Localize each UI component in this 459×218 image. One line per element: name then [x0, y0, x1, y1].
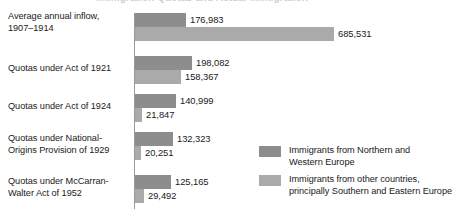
immigration-quota-bar-chart: Immigration Quotas and Actual Immigratio…: [0, 0, 459, 218]
row-category-label: Quotas under McCarran- Walter Act of 195…: [8, 176, 130, 199]
bar-value-label: 198,082: [192, 56, 230, 70]
bar-group-northern-western: 125,165: [135, 175, 209, 189]
legend-label-line1: Immigrants from Northern and: [289, 145, 410, 155]
bar-value-label: 132,323: [173, 132, 211, 146]
legend-item-other-countries[interactable]: Immigrants from other countries, princip…: [259, 174, 459, 197]
bar-group-northern-western: 198,082: [135, 56, 230, 70]
row-category-label-line1: Quotas under Act of 1921: [8, 63, 130, 75]
bar-value-label: 176,983: [186, 13, 224, 27]
bar-value-label: 685,531: [334, 27, 372, 41]
legend-label-line2: principally Southern and Eastern Europe: [289, 186, 452, 196]
chart-row: Quotas under Act of 1924 140,999 21,847: [0, 94, 459, 122]
bar-value-label: 29,492: [144, 189, 176, 203]
bar-value-label: 140,999: [176, 94, 214, 108]
bar-northern-western[interactable]: [135, 94, 176, 108]
legend-label-line1: Immigrants from other countries,: [289, 174, 420, 184]
bar-northern-western[interactable]: [135, 175, 171, 189]
bar-other[interactable]: [135, 189, 144, 203]
row-category-label: Average annual inflow, 1907–1914: [8, 11, 130, 34]
bar-northern-western[interactable]: [135, 13, 186, 27]
row-category-label: Quotas under National- Origins Provision…: [8, 133, 130, 156]
legend-label-line2: Western Europe: [289, 157, 355, 167]
bar-group-northern-western: 140,999: [135, 94, 214, 108]
bar-other[interactable]: [135, 27, 334, 41]
bar-group-other: 20,251: [135, 146, 173, 160]
bar-value-label: 21,847: [142, 108, 174, 122]
chart-row: Quotas under Act of 1921 198,082 158,367: [0, 56, 459, 84]
row-category-label-line1: Quotas under Act of 1924: [8, 101, 130, 113]
bar-group-other: 158,367: [135, 70, 219, 84]
bar-group-northern-western: 132,323: [135, 132, 211, 146]
chart-row: Average annual inflow, 1907–1914 176,983…: [0, 13, 459, 41]
row-category-label-line1: Average annual inflow,: [8, 11, 130, 23]
row-category-label-line1: Quotas under McCarran-: [8, 176, 130, 188]
chart-legend: Immigrants from Northern and Western Eur…: [259, 145, 459, 203]
bar-value-label: 125,165: [171, 175, 209, 189]
row-category-label-line2: 1907–1914: [8, 23, 130, 35]
bar-group-other: 21,847: [135, 108, 174, 122]
bar-group-northern-western: 176,983: [135, 13, 224, 27]
legend-label: Immigrants from other countries, princip…: [289, 174, 459, 197]
legend-label: Immigrants from Northern and Western Eur…: [289, 145, 459, 168]
row-category-label: Quotas under Act of 1924: [8, 101, 130, 113]
row-category-label-line1: Quotas under National-: [8, 133, 130, 145]
chart-title-cropped: Immigration Quotas and Actual Immigratio…: [0, 0, 459, 5]
row-category-label-line2: Origins Provision of 1929: [8, 145, 130, 157]
bar-group-other: 29,492: [135, 189, 176, 203]
bar-other[interactable]: [135, 108, 142, 122]
bar-value-label: 158,367: [181, 70, 219, 84]
bar-other[interactable]: [135, 70, 181, 84]
bar-northern-western[interactable]: [135, 56, 192, 70]
bar-group-other: 685,531: [135, 27, 372, 41]
legend-swatch-icon: [259, 175, 281, 186]
chart-title-text: Immigration Quotas and Actual Immigratio…: [96, 0, 308, 3]
legend-swatch-icon: [259, 146, 281, 157]
row-category-label: Quotas under Act of 1921: [8, 63, 130, 75]
bar-value-label: 20,251: [141, 146, 173, 160]
bar-northern-western[interactable]: [135, 132, 173, 146]
legend-item-northern-western[interactable]: Immigrants from Northern and Western Eur…: [259, 145, 459, 168]
row-category-label-line2: Walter Act of 1952: [8, 188, 130, 200]
